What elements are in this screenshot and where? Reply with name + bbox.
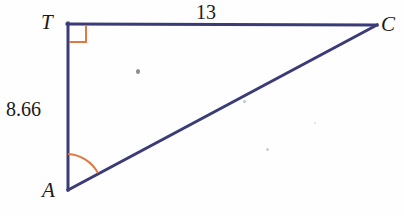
side-length-label-TA: 8.66 (6, 99, 41, 119)
triangle-drawing (0, 0, 404, 216)
side-TC-line (67, 24, 377, 25)
right-angle-square-icon (69, 25, 86, 42)
triangle-outline (67, 23, 377, 190)
angle-arc-icon (68, 154, 98, 173)
vertex-label-T: T (41, 12, 53, 33)
scan-artifact-speck (243, 100, 246, 103)
vertex-label-A: A (42, 180, 55, 201)
side-length-label-TC: 13 (196, 2, 216, 22)
geometry-figure: T C A 13 8.66 (0, 0, 404, 216)
scan-artifact-speck (314, 122, 316, 124)
side-AC-hypotenuse-line (68, 25, 377, 190)
scan-artifact-speck (266, 148, 269, 151)
scan-artifact-speck (136, 69, 140, 74)
vertex-label-C: C (381, 14, 395, 35)
